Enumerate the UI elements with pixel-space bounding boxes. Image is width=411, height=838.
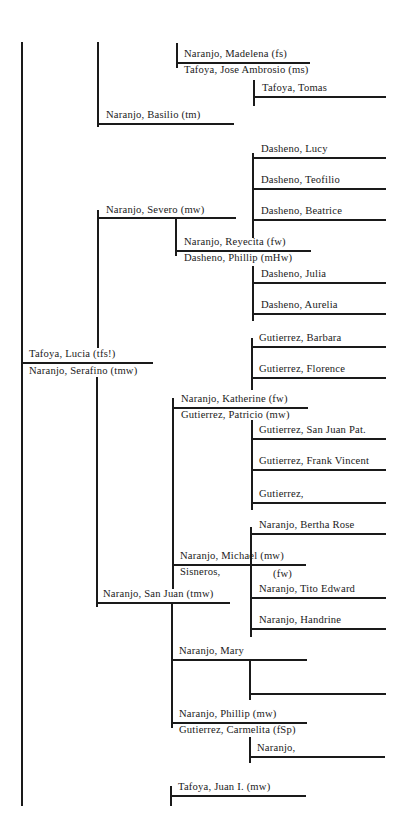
vertical-bracket-line [96, 377, 98, 607]
person-name-sanjuan-pat: Gutierrez, San Juan Pat. [259, 424, 366, 436]
horizontal-name-line [252, 313, 386, 315]
person-name-lucia: Tafoya, Lucia (tfs!) [29, 348, 116, 360]
vertical-bracket-line [21, 42, 23, 806]
horizontal-name-line [253, 96, 386, 98]
genealogy-chart: Naranjo, Madelena (fs)Tafoya, Jose Ambro… [0, 0, 411, 838]
horizontal-name-line [21, 362, 153, 364]
horizontal-name-line [252, 282, 386, 284]
horizontal-name-line [252, 188, 386, 190]
person-name-phillip-d: Dasheno, Phillip (mHw) [184, 252, 292, 264]
horizontal-name-line [250, 533, 386, 535]
horizontal-name-line [170, 795, 306, 797]
horizontal-name-line [252, 219, 386, 221]
person-name-tito: Naranjo, Tito Edward [259, 583, 355, 595]
horizontal-name-line [252, 157, 386, 159]
person-name-severo: Naranjo, Severo (mw) [106, 204, 204, 216]
person-name-carmelita: Gutierrez, Carmelita (fSp) [179, 724, 296, 736]
horizontal-name-line [251, 502, 386, 504]
horizontal-name-line [251, 377, 386, 379]
horizontal-name-line [250, 597, 386, 599]
person-name-tomas: Tafoya, Tomas [262, 82, 327, 94]
vertical-bracket-line [250, 527, 252, 637]
horizontal-name-line [249, 693, 386, 695]
horizontal-name-line [97, 123, 234, 125]
person-name-jose-ambrosio: Tafoya, Jose Ambrosio (ms) [184, 64, 309, 76]
person-name-frank-vincent: Gutierrez, Frank Vincent [259, 455, 369, 467]
person-name-sisneros: Sisneros, [180, 566, 220, 578]
vertical-bracket-line [176, 43, 178, 68]
person-name-barbara: Gutierrez, Barbara [259, 332, 341, 344]
vertical-bracket-line [171, 604, 173, 728]
person-name-basilio: Naranjo, Basilio (tm) [106, 109, 201, 121]
vertical-bracket-line [251, 420, 253, 510]
person-name-sanjuan: Naranjo, San Juan (tmw) [103, 588, 214, 600]
person-name-madelena: Naranjo, Madelena (fs) [184, 48, 287, 60]
person-name-julia: Dasheno, Julia [261, 268, 326, 280]
person-name-katherine: Naranjo, Katherine (fw) [181, 393, 288, 405]
person-name-beatrice: Dasheno, Beatrice [261, 205, 342, 217]
person-name-bertha: Naranjo, Bertha Rose [259, 519, 355, 531]
vertical-bracket-line [97, 210, 99, 348]
horizontal-name-line [97, 217, 236, 219]
person-name-michael: Naranjo, Michael (mw) [180, 550, 284, 562]
person-name-reyecita: Naranjo, Reyecita (fw) [184, 236, 286, 248]
person-name-juan-i: Tafoya, Juan I. (mw) [178, 781, 270, 793]
person-name-lucy: Dasheno, Lucy [261, 143, 328, 155]
person-name-mary: Naranjo, Mary [179, 645, 244, 657]
horizontal-name-line [249, 756, 385, 758]
person-name-florence: Gutierrez, Florence [259, 363, 345, 375]
person-name-phillip-n: Naranjo, Phillip (mw) [179, 708, 276, 720]
person-name-patricio: Gutierrez, Patricio (mw) [181, 409, 290, 421]
horizontal-name-line [251, 438, 386, 440]
horizontal-name-line [250, 628, 386, 630]
person-name-naranjo-blank: Naranjo, [257, 742, 295, 754]
vertical-bracket-line [249, 737, 251, 763]
person-name-gutierrez-blank: Gutierrez, [259, 488, 304, 500]
horizontal-name-line [171, 659, 307, 661]
person-name-teofilio: Dasheno, Teofilio [261, 174, 340, 186]
vertical-bracket-line [253, 80, 255, 106]
person-name-serafino: Naranjo, Serafino (tmw) [29, 365, 137, 377]
horizontal-name-line [96, 602, 230, 604]
vertical-bracket-line [172, 398, 174, 589]
vertical-bracket-line [97, 42, 99, 127]
person-name-handrine: Naranjo, Handrine [259, 614, 341, 626]
vertical-bracket-line [252, 153, 254, 238]
person-name-aurelia: Dasheno, Aurelia [261, 299, 338, 311]
person-name-sisneros-fw: (fw) [273, 568, 292, 580]
horizontal-name-line [251, 346, 386, 348]
horizontal-name-line [251, 469, 386, 471]
